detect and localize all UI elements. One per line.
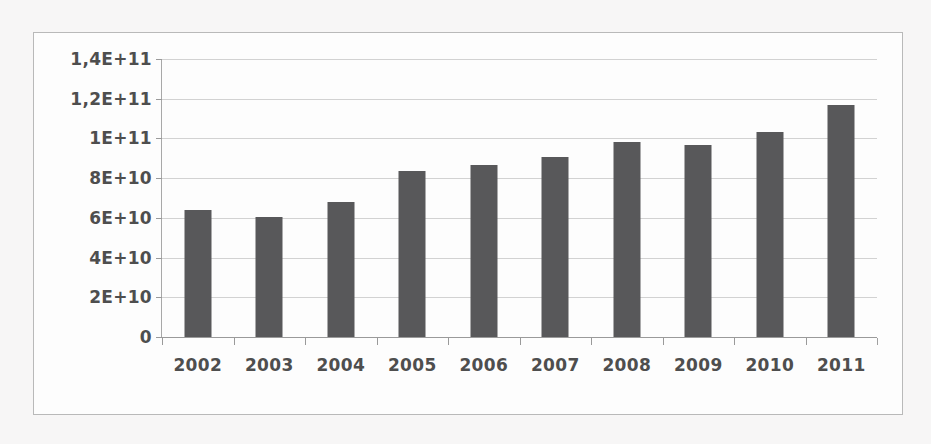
x-axis-tick-label: 2002 [173,355,222,375]
y-axis-tick [156,178,162,179]
x-axis-tick-label: 2004 [316,355,365,375]
bar [828,105,855,337]
y-axis-tick [156,297,162,298]
x-axis-tick-label: 2008 [602,355,651,375]
x-axis-tick-label: 2003 [245,355,294,375]
chart-page: 02E+104E+106E+108E+101E+111,2E+111,4E+11… [0,0,931,444]
y-axis-tick [156,59,162,60]
x-axis-tick [305,338,306,345]
x-axis-tick [520,338,521,345]
y-axis-tick-label: 1,4E+11 [70,49,152,69]
y-axis-tick-label: 1,2E+11 [70,89,152,109]
x-axis-tick [734,338,735,345]
x-axis-tick-label: 2010 [745,355,794,375]
bar [327,202,354,337]
y-axis-tick-label: 4E+10 [89,248,152,268]
bar [685,145,712,337]
x-axis-tick-label: 2005 [388,355,437,375]
chart-frame: 02E+104E+106E+108E+101E+111,2E+111,4E+11… [33,32,903,415]
y-axis-tick-label: 2E+10 [89,287,152,307]
y-axis-tick [156,258,162,259]
bar [542,157,569,337]
x-axis-tick-label: 2006 [459,355,508,375]
bar [613,142,640,337]
x-axis-tick [162,338,163,345]
x-axis-tick [806,338,807,345]
bar [756,132,783,337]
x-axis-tick-label: 2011 [817,355,866,375]
x-axis-end-tick [877,338,878,345]
x-axis-tick [377,338,378,345]
y-axis-line [161,59,162,337]
y-axis-tick [156,138,162,139]
gridline [162,59,877,60]
bar [399,171,426,337]
x-axis-tick [234,338,235,345]
bar [184,210,211,337]
x-axis-tick [448,338,449,345]
gridline [162,99,877,100]
y-axis-tick-label: 1E+11 [89,128,152,148]
bar [256,217,283,337]
y-axis-tick [156,99,162,100]
x-axis-tick-label: 2007 [531,355,580,375]
y-axis-tick-label: 0 [140,327,152,347]
x-axis-tick-label: 2009 [674,355,723,375]
y-axis-tick-label: 8E+10 [89,168,152,188]
plot-area: 02E+104E+106E+108E+101E+111,2E+111,4E+11… [162,59,877,337]
y-axis-tick [156,218,162,219]
bar [470,165,497,337]
x-axis-tick [663,338,664,345]
x-axis-tick [591,338,592,345]
y-axis-tick-label: 6E+10 [89,208,152,228]
